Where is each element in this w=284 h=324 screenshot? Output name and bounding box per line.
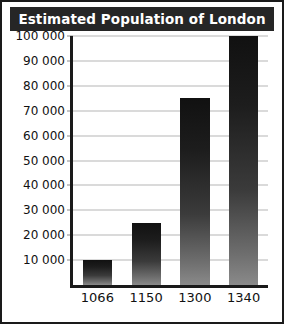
y-axis-tick-labels: 100 00090 00080 00070 00060 00050 00040 … [10, 36, 67, 286]
plot-region: 100 00090 00080 00070 00060 00050 00040 … [10, 36, 274, 318]
y-axis-tick-label: 10 000 [23, 253, 65, 267]
y-axis-tick-label: 40 000 [23, 178, 65, 192]
x-axis-tick-label: 1340 [227, 290, 260, 305]
chart-title-bar: Estimated Population of London [10, 7, 274, 31]
bar-1340 [229, 36, 258, 285]
x-axis-line [70, 285, 268, 288]
y-axis-tick-label: 20 000 [23, 228, 65, 242]
y-axis-tick-label: 70 000 [23, 104, 65, 118]
bars-layer [73, 36, 268, 285]
bar-1066 [83, 260, 112, 285]
bar-1150 [132, 223, 161, 285]
x-axis-tick-label: 1150 [130, 290, 163, 305]
y-axis-tick-label: 50 000 [23, 154, 65, 168]
y-axis-tick-label: 60 000 [23, 129, 65, 143]
y-axis-tick-label: 30 000 [23, 203, 65, 217]
y-axis-tick-label: 80 000 [23, 79, 65, 93]
bar-1300 [180, 98, 209, 285]
x-axis-tick-labels: 1066115013001340 [73, 290, 268, 314]
chart-container: Estimated Population of London 100 00090… [0, 0, 284, 324]
y-axis-tick-label: 100 000 [15, 29, 65, 43]
x-axis-tick-label: 1300 [178, 290, 211, 305]
y-axis-tick-label: 90 000 [23, 54, 65, 68]
axes-area [70, 36, 268, 286]
chart-title: Estimated Population of London [18, 11, 265, 27]
y-axis-line [70, 36, 73, 288]
x-axis-tick-label: 1066 [81, 290, 114, 305]
